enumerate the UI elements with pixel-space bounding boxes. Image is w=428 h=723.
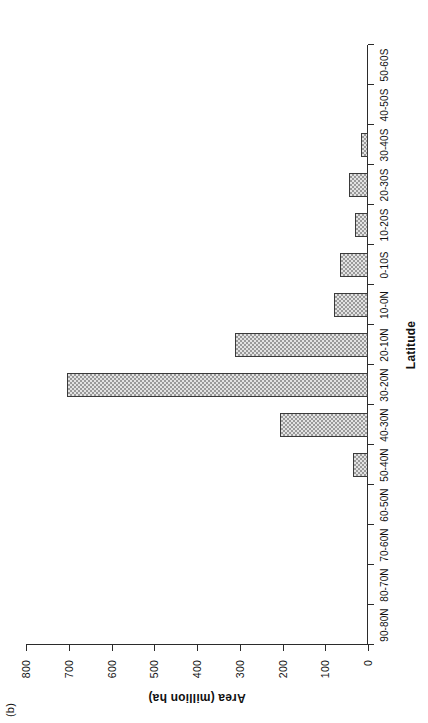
y-tick	[240, 645, 241, 651]
x-tick-label: 20-10N	[379, 328, 390, 361]
x-tick	[368, 164, 374, 165]
bar	[280, 413, 368, 438]
x-tick	[368, 524, 374, 525]
chart-figure: (b) Area (million ha) Latitude 010020030…	[0, 0, 428, 723]
x-axis-title: Latitude	[404, 45, 418, 645]
x-tick	[368, 284, 374, 285]
y-tick	[325, 645, 326, 651]
x-tick-label: 30-20N	[379, 368, 390, 401]
y-tick-label: 600	[106, 660, 118, 678]
y-tick	[112, 645, 113, 651]
y-axis-title: Area (million ha)	[26, 689, 368, 707]
x-tick-label: 90-80N	[379, 608, 390, 641]
x-tick	[368, 404, 374, 405]
x-tick-label: 10-20S	[379, 209, 390, 242]
bar	[67, 373, 368, 398]
x-tick-label: 70-60N	[379, 528, 390, 561]
y-tick	[26, 645, 27, 651]
y-tick	[69, 645, 70, 651]
x-tick-label: 30-40S	[379, 129, 390, 162]
x-tick-label: 40-50S	[379, 89, 390, 122]
bar	[235, 333, 368, 358]
figure-rotation-stage: (b) Area (million ha) Latitude 010020030…	[0, 0, 428, 723]
x-tick-label: 10-0N	[379, 291, 390, 319]
x-tick	[368, 124, 374, 125]
x-tick-label: 40-30N	[379, 408, 390, 441]
bar	[334, 293, 368, 318]
x-tick	[368, 644, 374, 645]
x-tick	[368, 444, 374, 445]
y-tick-label: 400	[191, 660, 203, 678]
x-tick-label: 20-30S	[379, 169, 390, 202]
bar	[353, 453, 368, 478]
x-tick-label: 80-70N	[379, 568, 390, 601]
bar	[355, 213, 368, 238]
y-tick	[368, 645, 369, 651]
y-tick-label: 800	[20, 660, 32, 678]
x-tick	[368, 604, 374, 605]
y-tick-label: 500	[148, 660, 160, 678]
x-tick-label: 0-10S	[379, 251, 390, 278]
x-tick-label: 50-60S	[379, 49, 390, 82]
x-tick-label: 50-40N	[379, 448, 390, 481]
x-tick	[368, 324, 374, 325]
y-tick-label: 100	[319, 660, 331, 678]
x-tick	[368, 84, 374, 85]
x-tick	[368, 484, 374, 485]
y-axis-title-text: Area (million ha)	[148, 691, 245, 705]
bar	[340, 253, 368, 278]
y-tick-label: 200	[277, 660, 289, 678]
plot-area: 0100200300400500600700800 90-80N80-70N70…	[26, 45, 368, 645]
bar	[361, 133, 368, 158]
x-tick	[368, 364, 374, 365]
x-tick	[368, 44, 374, 45]
y-tick	[154, 645, 155, 651]
x-tick	[368, 244, 374, 245]
y-tick-label: 300	[234, 660, 246, 678]
x-tick-label: 60-50N	[379, 488, 390, 521]
y-tick	[197, 645, 198, 651]
bar	[349, 173, 368, 198]
y-tick-label: 0	[362, 660, 374, 666]
y-tick	[283, 645, 284, 651]
x-tick	[368, 564, 374, 565]
y-tick-label: 700	[63, 660, 75, 678]
x-tick	[368, 204, 374, 205]
panel-label: (b)	[4, 703, 16, 717]
